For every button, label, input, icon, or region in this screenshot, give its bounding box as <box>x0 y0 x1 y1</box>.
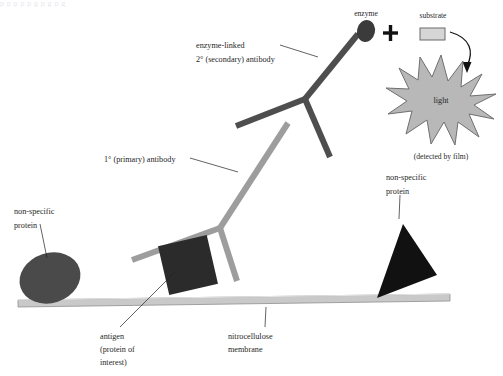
leader-secondary-antibody <box>280 45 318 57</box>
nonspecific-right-label-line2: protein <box>386 187 409 196</box>
primary-antibody-label: 1° (primary) antibody <box>104 155 176 164</box>
light-label: light <box>433 96 449 105</box>
antigen-label-line1: antigen <box>100 332 124 341</box>
secondary-antibody-arm-right <box>305 99 330 157</box>
nonspecific-right-label-line1: non-specific <box>386 173 427 182</box>
antigen-label-line3: interest) <box>100 358 127 367</box>
secondary-antibody-label-line1: enzyme-linked <box>196 41 245 50</box>
reaction-arrow-curve <box>450 32 470 66</box>
light-burst-shape: light <box>386 55 496 145</box>
antigen-label-line2: (protein of <box>100 345 135 354</box>
leader-primary-antibody <box>190 158 238 172</box>
leader-nonspecific-right <box>399 195 400 219</box>
substrate-label: substrate <box>420 11 448 20</box>
nonspecific-left-label-line1: non-specific <box>14 207 55 216</box>
nonspecific-protein-triangle <box>377 224 437 298</box>
immunodetection-diagram: light enzyme substrate (detected by film… <box>0 0 503 376</box>
antigen-shape <box>158 235 218 295</box>
enzyme-label: enzyme <box>354 9 378 18</box>
nonspecific-protein-right-shape <box>377 224 437 298</box>
membrane-label-line2: membrane <box>228 345 263 354</box>
secondary-antibody-label-line2: 2° (secondary) antibody <box>196 55 276 64</box>
leader-lines <box>40 45 400 327</box>
enzyme-shape <box>355 18 377 43</box>
nonspecific-left-label-line2: protein <box>14 221 37 230</box>
secondary-antibody-stem <box>305 34 358 99</box>
primary-antibody-arm-right <box>220 228 237 281</box>
nitrocellulose-membrane <box>18 294 450 307</box>
primary-antibody-stem <box>220 123 288 228</box>
detected-by-film-label: (detected by film) <box>414 152 469 161</box>
leader-membrane <box>265 307 266 327</box>
substrate-shape <box>420 28 445 40</box>
figure-canvas: p p p p p g p g p g <box>0 0 503 376</box>
leader-nonspecific-left <box>40 224 47 258</box>
plus-sign-icon <box>383 25 398 41</box>
secondary-antibody-arm-left <box>236 99 305 126</box>
reaction-arrow-head <box>463 62 472 73</box>
membrane-label-line1: nitrocellulose <box>228 332 273 341</box>
antigen-square <box>158 235 218 295</box>
membrane-bar <box>18 294 450 307</box>
secondary-antibody-shape <box>236 34 358 157</box>
